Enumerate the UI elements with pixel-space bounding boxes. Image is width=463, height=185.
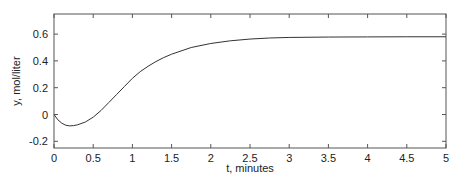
x-tick-label: 3.5 <box>321 152 336 164</box>
x-tick-label: 4.5 <box>399 152 414 164</box>
y-tick-label: 0.4 <box>33 55 48 67</box>
x-tick-label: 0.5 <box>86 152 101 164</box>
y-tick-label: 0.6 <box>33 28 48 40</box>
x-tick-label: 3 <box>286 152 292 164</box>
plot-frame <box>54 14 446 148</box>
x-axis-label: t, minutes <box>226 162 274 174</box>
y-axis-label: y, mol/liter <box>10 56 22 106</box>
y-axis: -0.200.20.40.6 <box>29 28 446 147</box>
y-tick-label: 0 <box>42 109 48 121</box>
y-tick-label: 0.2 <box>33 82 48 94</box>
data-line <box>54 37 446 126</box>
x-tick-label: 2 <box>208 152 214 164</box>
x-tick-label: 1 <box>129 152 135 164</box>
x-tick-label: 0 <box>51 152 57 164</box>
plot-area <box>54 14 446 148</box>
x-tick-label: 1.5 <box>164 152 179 164</box>
x-tick-label: 5 <box>443 152 449 164</box>
line-chart: 00.511.522.533.544.55 -0.200.20.40.6 t, … <box>0 0 463 185</box>
x-tick-label: 4 <box>365 152 371 164</box>
y-tick-label: -0.2 <box>29 135 48 147</box>
